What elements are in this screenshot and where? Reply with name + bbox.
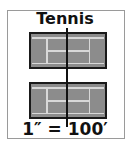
center-reference-line (66, 28, 68, 127)
center-service-line (46, 100, 90, 102)
scale-label: 1″ = 100′ (0, 119, 130, 139)
sideline-top (32, 37, 104, 39)
sideline-bottom (32, 113, 104, 115)
tennis-court-top (29, 32, 107, 69)
sideline-bottom (32, 63, 104, 65)
tennis-court-bottom (29, 82, 107, 119)
center-service-line (46, 50, 90, 52)
diagram-title: Tennis (0, 10, 130, 28)
sideline-top (32, 87, 104, 89)
